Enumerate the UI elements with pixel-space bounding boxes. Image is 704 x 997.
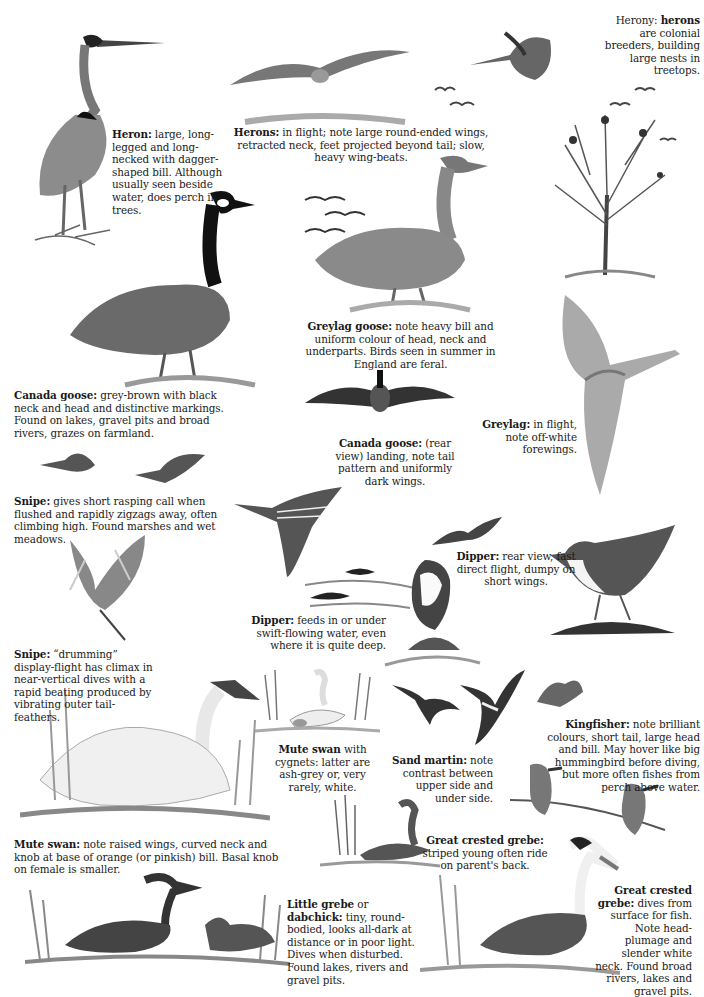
- heron-flying-right-illustration: [465, 25, 565, 85]
- greylag-in-flight-illustration: [535, 290, 685, 500]
- caption-mute-swan: Mute swan: note raised wings, curved nec…: [14, 838, 292, 876]
- snipe-flying-illustration: [35, 445, 210, 495]
- caption-snipe-drumming: Snipe: “drumming” display-flight has cli…: [14, 648, 154, 724]
- caption-snipe: Snipe: gives short rasping call when flu…: [14, 495, 229, 545]
- herony-tree-illustration: [535, 105, 680, 280]
- caption-sand-martin: Sand martin: note contrast between upper…: [383, 754, 493, 804]
- caption-mute-swan-cygnets: Mute swan with cygnets: latter are ash-g…: [270, 743, 375, 793]
- caption-greylag-goose: Greylag goose: note heavy bill and unifo…: [303, 320, 498, 370]
- sand-martins-illustration: [390, 665, 530, 745]
- dipper-flying-illustration: [430, 515, 505, 550]
- caption-dipper-flight: Dipper: rear view, fast direct flight, d…: [456, 550, 576, 588]
- caption-canada-goose-rear: Canada goose: (rear view) landing, note …: [330, 437, 460, 487]
- caption-dipper: Dipper: feeds in or under swift-flowing …: [250, 614, 386, 652]
- caption-herons-flight: Herons: in flight; note large round-ende…: [226, 126, 496, 164]
- mute-swan-with-cygnets-illustration: [255, 665, 380, 735]
- caption-great-crested-grebe: Great crested grebe: dives from surface …: [592, 884, 692, 997]
- snipe-drumming-illustration: [35, 530, 155, 645]
- herons-in-flight-illustration: [225, 30, 415, 125]
- caption-great-crested-grebe-young: Great crested grebe: striped young often…: [420, 834, 550, 872]
- caption-little-grebe: Little grebe or dabchick: tiny, round-bo…: [287, 898, 417, 986]
- caption-herony: Herony: herons are colonial breeders, bu…: [598, 14, 700, 77]
- caption-canada-goose: Canada goose: grey-brown with black neck…: [14, 389, 239, 439]
- kingfisher-hovering-illustration: [535, 672, 585, 712]
- caption-heron: Heron: large, long-legged and long-necke…: [112, 128, 232, 216]
- canada-goose-landing-rear-illustration: [300, 368, 460, 423]
- little-grebes-illustration: [25, 870, 290, 970]
- caption-kingfisher: Kingfisher: note brilliant colours, shor…: [545, 718, 700, 794]
- greylag-goose-standing-illustration: [310, 150, 495, 315]
- caption-greylag-flight: Greylag: in flight, note off-white forew…: [480, 418, 577, 456]
